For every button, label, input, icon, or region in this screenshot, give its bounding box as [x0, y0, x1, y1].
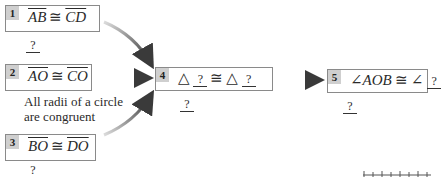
step-number: 3	[6, 135, 19, 149]
step-3-box: 3 BO≅DO	[5, 134, 96, 161]
step-2-box: 2 AO≅CO	[5, 64, 92, 91]
step-4-reason[interactable]: ?	[180, 96, 194, 112]
ruler-icon	[363, 171, 431, 177]
step-4-box: 4 △ ?≅△ ?	[155, 67, 273, 91]
step-2-reason: All radii of a circle are congruent	[24, 94, 123, 124]
step-3-reason[interactable]: ?	[26, 162, 40, 177]
reason-blank[interactable]: ?	[180, 98, 194, 112]
step-number: 5	[328, 70, 341, 84]
step-1-reason[interactable]: ?	[26, 37, 40, 53]
step-statement: △ ?≅△ ?	[178, 69, 256, 87]
step-5-reason[interactable]: ?	[343, 98, 357, 114]
step-5-box: 5 ∠AOB≅∠ ?	[327, 69, 428, 93]
step-1-box: 1 AB≅CD	[5, 5, 100, 32]
statement-blank[interactable]: ?	[193, 73, 207, 87]
step-statement: AO≅CO	[28, 67, 88, 85]
step-number: 1	[6, 6, 19, 20]
step-number: 2	[6, 65, 19, 79]
reason-blank[interactable]: ?	[26, 164, 40, 177]
reason-blank[interactable]: ?	[343, 100, 357, 114]
step-statement: BO≅DO	[28, 137, 89, 155]
triangle-icon: △	[178, 70, 190, 86]
statement-blank[interactable]: ?	[242, 73, 256, 87]
step-statement: ∠AOB≅∠ ?	[350, 71, 441, 89]
triangle-icon: △	[226, 70, 238, 86]
arrow-1-to-4	[104, 22, 151, 64]
reason-blank[interactable]: ?	[26, 39, 40, 53]
statement-blank[interactable]: ?	[427, 75, 441, 89]
angle-icon: ∠	[411, 72, 424, 88]
step-number: 4	[156, 68, 169, 82]
step-statement: AB≅CD	[28, 8, 86, 26]
